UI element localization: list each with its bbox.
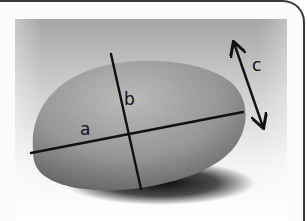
label-b: b [124, 89, 135, 109]
label-a: a [80, 119, 90, 139]
label-c: c [252, 55, 261, 75]
pebble-axes-diagram: a b c [0, 0, 308, 221]
